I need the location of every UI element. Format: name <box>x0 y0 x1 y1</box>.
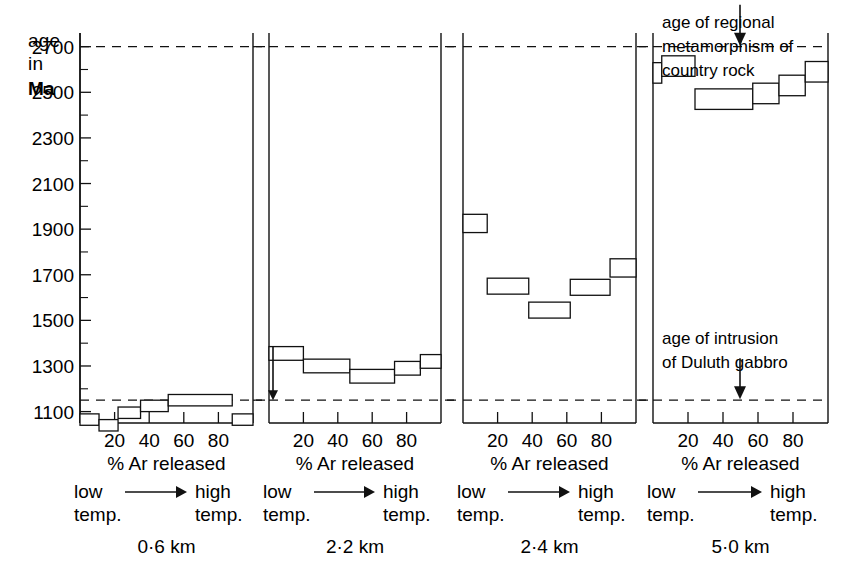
age-step-box <box>118 407 140 418</box>
temp-low-label: low <box>647 481 676 502</box>
x-axis-tick-label: 80 <box>208 430 229 451</box>
x-axis-caption: % Ar released <box>681 453 799 474</box>
x-axis-tick-label: 40 <box>139 430 160 451</box>
age-step-box <box>753 83 779 104</box>
x-axis-caption: % Ar released <box>490 453 608 474</box>
panel-depth-caption: 2·2 km <box>326 536 384 557</box>
age-step-box <box>805 62 828 83</box>
x-axis-tick-label: 80 <box>782 430 803 451</box>
age-step-box <box>529 302 571 318</box>
temp-high-label: high <box>578 481 614 502</box>
age-step-box <box>303 359 349 373</box>
annotation-regional-metamorphism-line: age of regional <box>662 13 774 32</box>
age-step-box <box>695 89 753 110</box>
y-axis-tick-label: 1100 <box>33 402 74 423</box>
age-step-box <box>610 259 636 277</box>
figure-stage: age in Ma 110013001500170019002100230025… <box>0 0 860 572</box>
right-arrow-icon-head <box>751 486 762 498</box>
panel-depth-caption: 5·0 km <box>711 536 769 557</box>
y-axis-tick-label: 2100 <box>32 174 74 195</box>
temp-high-label-2: temp. <box>578 504 626 525</box>
x-axis-tick-label: 40 <box>327 430 348 451</box>
temp-high-label: high <box>770 481 806 502</box>
x-axis-tick-label: 80 <box>396 430 417 451</box>
age-step-box <box>141 400 169 411</box>
y-axis-tick-label: 2300 <box>32 128 74 149</box>
y-axis-tick-label: 2500 <box>32 82 74 103</box>
temp-high-label-2: temp. <box>770 504 818 525</box>
age-step-box <box>80 414 99 425</box>
temp-high-label-2: temp. <box>383 504 431 525</box>
x-axis-tick-label: 80 <box>591 430 612 451</box>
x-axis-tick-label: 60 <box>556 430 577 451</box>
age-step-box <box>570 279 610 295</box>
age-step-box <box>395 361 421 375</box>
x-axis-tick-label: 60 <box>362 430 383 451</box>
x-axis-tick-label: 60 <box>173 430 194 451</box>
age-step-box <box>168 394 232 405</box>
x-axis-caption: % Ar released <box>107 453 225 474</box>
x-axis-tick-label: 60 <box>747 430 768 451</box>
temp-high-label-2: temp. <box>195 504 243 525</box>
x-axis-tick-label: 20 <box>104 430 125 451</box>
panel-depth-caption: 0·6 km <box>137 536 195 557</box>
age-step-box <box>487 278 529 294</box>
age-step-box <box>779 75 805 96</box>
plot-layer: 1100130015001700190021002300250027002040… <box>32 5 828 557</box>
age-step-box <box>269 347 303 361</box>
temp-low-label: low <box>74 481 103 502</box>
x-axis-tick-label: 20 <box>293 430 314 451</box>
y-axis-tick-label: 1500 <box>32 310 74 331</box>
x-axis-caption: % Ar released <box>296 453 414 474</box>
annotation-regional-metamorphism-line: metamorphism of <box>662 37 794 56</box>
y-axis-tick-label: 2700 <box>32 37 74 58</box>
right-arrow-icon-head <box>364 486 375 498</box>
temp-low-label-2: temp. <box>457 504 505 525</box>
age-step-box <box>350 369 395 383</box>
age-spectrum-figure: age in Ma 110013001500170019002100230025… <box>0 0 860 572</box>
annotation-duluth-gabbro-line: of Duluth gabbro <box>662 353 788 372</box>
y-axis-tick-label: 1700 <box>32 265 74 286</box>
panel-depth-caption: 2·4 km <box>520 536 578 557</box>
age-step-box <box>463 214 487 232</box>
age-step-box <box>653 63 662 84</box>
age-step-box <box>99 420 118 431</box>
age-step-box <box>420 355 441 369</box>
right-arrow-icon-head <box>559 486 570 498</box>
x-axis-tick-label: 40 <box>522 430 543 451</box>
annotation-regional-metamorphism-line: country rock <box>662 61 755 80</box>
temp-high-label: high <box>383 481 419 502</box>
temp-low-label: low <box>457 481 486 502</box>
y-axis-tick-label: 1300 <box>32 356 74 377</box>
down-arrow-icon-head <box>734 386 746 399</box>
temp-low-label-2: temp. <box>263 504 311 525</box>
x-axis-tick-label: 20 <box>487 430 508 451</box>
temp-low-label: low <box>263 481 292 502</box>
right-arrow-icon-head <box>176 486 187 498</box>
y-axis-tick-label: 1900 <box>32 219 74 240</box>
x-axis-tick-label: 20 <box>677 430 698 451</box>
temp-low-label-2: temp. <box>647 504 695 525</box>
temp-low-label-2: temp. <box>74 504 122 525</box>
x-axis-tick-label: 40 <box>712 430 733 451</box>
annotation-duluth-gabbro-line: age of intrusion <box>662 329 778 348</box>
age-step-box <box>232 414 253 425</box>
temp-high-label: high <box>195 481 231 502</box>
